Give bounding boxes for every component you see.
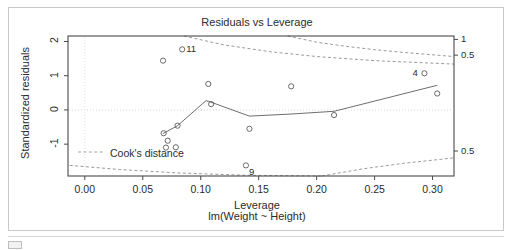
point-label-4: 4 [412, 67, 417, 78]
point-label-9: 9 [249, 166, 254, 177]
loess-smoother-line [163, 85, 437, 133]
data-point-7 [206, 81, 211, 86]
y-tick-label-2: 2 [48, 32, 60, 48]
cooks-distance-contour-0.5-lower [70, 165, 322, 176]
data-point-11 [180, 47, 185, 52]
cooks-distance-contour-0.5-upper [184, 36, 454, 64]
point-label-11: 11 [186, 43, 196, 54]
screenshot-root: Residuals vs Leverage Leverage lm(Weight… [0, 0, 514, 250]
x-tick-label-0.05: 0.05 [133, 183, 153, 195]
chart-title: Residuals vs Leverage [0, 16, 514, 28]
y-tick-label-0: 0 [48, 101, 60, 117]
y-axis-label: Standardized residuals [19, 33, 31, 173]
x-tick-label-0.30: 0.30 [422, 183, 442, 195]
data-point-10 [247, 126, 252, 131]
x-axis-sublabel: lm(Weight ~ Height) [0, 210, 514, 222]
data-point-14 [435, 91, 440, 96]
cooks-distance-contour-1-upper [288, 36, 454, 57]
y-tick-label--1: -1 [48, 135, 60, 151]
data-point-4 [422, 71, 427, 76]
data-point-0 [160, 58, 165, 63]
cooks-distance-contour-0.5-lower-right [322, 158, 454, 176]
cooks-level-label-0: 1 [461, 33, 466, 44]
x-tick-label-0.15: 0.15 [248, 183, 268, 195]
cooks-distance-legend-label: Cook's distance [110, 147, 184, 159]
cooks-level-label-1: 0.5 [461, 49, 474, 60]
y-tick-label-1: 1 [48, 67, 60, 83]
data-point-3 [165, 138, 170, 143]
x-tick-label-0.25: 0.25 [364, 183, 384, 195]
data-point-9 [243, 163, 248, 168]
x-tick-label-0.20: 0.20 [306, 183, 326, 195]
x-tick-label-0.00: 0.00 [75, 183, 95, 195]
x-tick-label-0.10: 0.10 [191, 183, 211, 195]
data-point-12 [331, 112, 336, 117]
cooks-level-label-2: 0.5 [461, 145, 474, 156]
data-point-11 [289, 84, 294, 89]
